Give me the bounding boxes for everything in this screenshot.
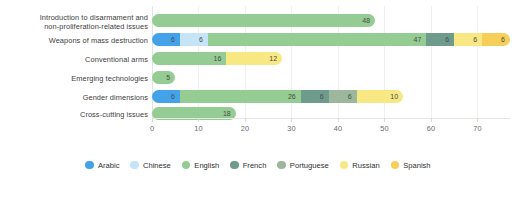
category-axis: Introduction to disarmament andnon-proli… xyxy=(6,6,148,118)
gridline xyxy=(477,6,478,118)
legend-label: English xyxy=(194,161,219,170)
bar-value-label: 6 xyxy=(445,36,454,43)
axis-tick xyxy=(152,118,153,122)
legend-label: French xyxy=(243,161,267,170)
category-label-line: non-proliferation-related issues xyxy=(6,23,148,32)
legend-item-chinese[interactable]: Chinese xyxy=(130,161,170,170)
value-axis: 010203040506070 xyxy=(152,118,510,138)
bar-value-label: 48 xyxy=(362,17,375,24)
legend-label: Chinese xyxy=(143,161,171,170)
bar-value-label: 26 xyxy=(288,93,301,100)
category-label: Gender dimensions xyxy=(6,94,148,103)
category-label: Cross-cutting issues xyxy=(6,111,148,120)
legend-item-english[interactable]: English xyxy=(182,161,219,170)
category-label: Weapons of mass destruction xyxy=(6,37,148,46)
bar-segment[interactable]: 6 xyxy=(329,90,357,103)
stacked-bar-chart: Introduction to disarmament andnon-proli… xyxy=(0,0,516,198)
bar-value-label: 6 xyxy=(320,93,329,100)
category-label: Emerging technologies xyxy=(6,75,148,84)
bar-segment[interactable]: 6 xyxy=(454,33,482,46)
category-label: Conventional arms xyxy=(6,56,148,65)
bar-value-label: 6 xyxy=(171,36,180,43)
legend-swatch-icon xyxy=(340,161,349,170)
bar-value-label: 5 xyxy=(166,74,175,81)
bar-value-label: 10 xyxy=(390,93,403,100)
bar-row[interactable]: 1612 xyxy=(152,52,282,65)
gridline xyxy=(431,6,432,118)
legend-label: Russian xyxy=(352,161,379,170)
axis-tick xyxy=(198,118,199,122)
bar-row[interactable]: 5 xyxy=(152,71,175,84)
axis-line xyxy=(152,118,510,119)
bar-segment[interactable]: 10 xyxy=(357,90,403,103)
bar-row[interactable]: 48 xyxy=(152,14,375,27)
bar-value-label: 47 xyxy=(414,36,427,43)
bar-value-label: 6 xyxy=(199,36,208,43)
category-label-line: Cross-cutting issues xyxy=(6,111,148,120)
legend-swatch-icon xyxy=(230,161,239,170)
bar-segment[interactable]: 12 xyxy=(226,52,282,65)
axis-tick-label: 20 xyxy=(241,124,249,133)
bar-value-label: 16 xyxy=(214,55,227,62)
axis-tick-label: 0 xyxy=(150,124,154,133)
axis-tick-label: 60 xyxy=(427,124,435,133)
legend-swatch-icon xyxy=(277,161,286,170)
bar-value-label: 6 xyxy=(501,36,510,43)
category-label: Introduction to disarmament andnon-proli… xyxy=(6,14,148,31)
legend-label: Arabic xyxy=(98,161,120,170)
legend-swatch-icon xyxy=(182,161,191,170)
bar-segment[interactable]: 6 xyxy=(152,33,180,46)
bar-segment[interactable]: 26 xyxy=(180,90,301,103)
axis-tick xyxy=(245,118,246,122)
legend-item-portuguese[interactable]: Portuguese xyxy=(277,161,328,170)
bars-container: 48664766616125626661018 xyxy=(152,6,510,118)
bar-value-label: 18 xyxy=(223,110,236,117)
bar-segment[interactable]: 6 xyxy=(152,90,180,103)
bar-segment[interactable]: 6 xyxy=(482,33,510,46)
legend-swatch-icon xyxy=(85,161,94,170)
axis-tick-label: 40 xyxy=(334,124,342,133)
legend-item-french[interactable]: French xyxy=(230,161,266,170)
bar-segment[interactable]: 6 xyxy=(301,90,329,103)
axis-tick xyxy=(477,118,478,122)
bar-segment[interactable]: 47 xyxy=(208,33,427,46)
axis-tick xyxy=(291,118,292,122)
legend-swatch-icon xyxy=(391,161,400,170)
legend-label: Portuguese xyxy=(290,161,329,170)
legend-item-arabic[interactable]: Arabic xyxy=(85,161,119,170)
bar-segment[interactable]: 6 xyxy=(180,33,208,46)
axis-tick-label: 10 xyxy=(194,124,202,133)
axis-tick-label: 70 xyxy=(473,124,481,133)
legend-item-spanish[interactable]: Spanish xyxy=(391,161,431,170)
bar-value-label: 6 xyxy=(473,36,482,43)
axis-tick-label: 30 xyxy=(287,124,295,133)
chart-legend: ArabicChineseEnglishFrenchPortugueseRuss… xyxy=(0,155,516,175)
bar-value-label: 6 xyxy=(348,93,357,100)
bar-segment[interactable]: 6 xyxy=(426,33,454,46)
category-label-line: Weapons of mass destruction xyxy=(6,37,148,46)
legend-item-russian[interactable]: Russian xyxy=(340,161,380,170)
category-label-line: Emerging technologies xyxy=(6,75,148,84)
bar-segment[interactable]: 48 xyxy=(152,14,375,27)
bar-value-label: 6 xyxy=(171,93,180,100)
legend-label: Spanish xyxy=(403,161,430,170)
legend-swatch-icon xyxy=(130,161,139,170)
axis-tick xyxy=(384,118,385,122)
category-label-line: Gender dimensions xyxy=(6,94,148,103)
bar-segment[interactable]: 16 xyxy=(152,52,226,65)
axis-tick xyxy=(431,118,432,122)
bar-segment[interactable]: 5 xyxy=(152,71,175,84)
axis-tick xyxy=(338,118,339,122)
category-label-line: Conventional arms xyxy=(6,56,148,65)
bar-value-label: 12 xyxy=(269,55,282,62)
bar-row[interactable]: 6647666 xyxy=(152,33,510,46)
bar-row[interactable]: 6266610 xyxy=(152,90,403,103)
axis-tick-label: 50 xyxy=(380,124,388,133)
